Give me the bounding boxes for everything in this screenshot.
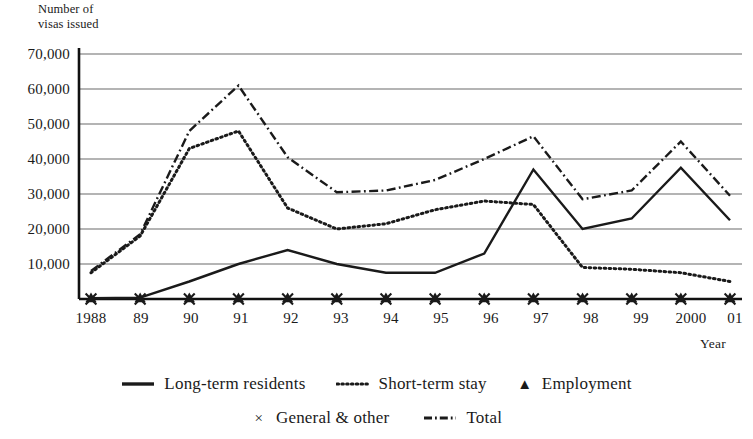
legend-item-employment[interactable]: ▲Employment xyxy=(517,374,632,394)
legend-item-total[interactable]: Total xyxy=(423,408,502,428)
visa-line-chart-figure: Number of visas issued 70,000 60,000 50,… xyxy=(0,0,753,439)
legend-line-swatch xyxy=(336,377,370,391)
legend-row-secondary: ×General & other Total xyxy=(0,408,753,428)
series-long-term-residents xyxy=(91,168,730,299)
legend-item-short-term-stay[interactable]: Short-term stay xyxy=(336,374,487,394)
legend-label: Total xyxy=(466,408,502,428)
legend-item-general-other[interactable]: ×General & other xyxy=(251,408,389,428)
triangle-icon: ▲ xyxy=(517,377,533,391)
series-line xyxy=(91,168,730,299)
cross-icon: × xyxy=(251,411,267,425)
legend-row-primary: Long-term residents Short-term stay▲Empl… xyxy=(0,374,753,394)
legend-item-long-term-residents[interactable]: Long-term residents xyxy=(121,374,305,394)
legend-line-swatch xyxy=(121,377,155,391)
series-short-term-stay xyxy=(91,131,730,282)
series-line xyxy=(91,131,730,282)
legend-line-swatch xyxy=(423,411,457,425)
data-series-layer xyxy=(85,86,735,305)
legend-label: General & other xyxy=(276,408,389,428)
legend-label: Employment xyxy=(542,374,632,394)
legend-label: Short-term stay xyxy=(379,374,487,394)
series-employment xyxy=(85,293,735,303)
series-line xyxy=(91,86,730,272)
series-total xyxy=(91,86,730,272)
legend-label: Long-term residents xyxy=(164,374,305,394)
gridlines xyxy=(79,54,742,264)
